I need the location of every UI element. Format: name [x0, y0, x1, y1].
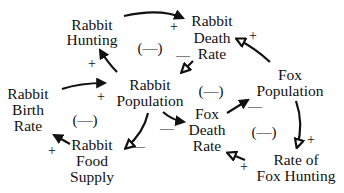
- sign-hunting-to-foxdeath: +: [240, 159, 248, 174]
- sign-food-to-birth: +: [48, 143, 56, 158]
- link-fox-to-hunting: [296, 101, 300, 147]
- loop-label-right: (—): [252, 124, 277, 141]
- sign-birth-to-pop: +: [97, 89, 105, 104]
- node-label: Death: [188, 121, 225, 138]
- link-food-to-birth: [54, 135, 70, 144]
- node-label: Fox Hunting: [257, 167, 336, 184]
- node-label: Death: [193, 29, 230, 46]
- causal-loop-diagram: Rabbit Hunting Rabbit Death Rate Fox Pop…: [0, 0, 344, 193]
- node-label: Fox: [195, 105, 219, 122]
- link-pop-to-hunting: [100, 50, 117, 72]
- node-label: Rate: [193, 137, 222, 154]
- node-label: Rate: [14, 117, 43, 134]
- node-fox-population: Fox Population: [256, 66, 323, 99]
- loop-label-left: (—): [73, 112, 98, 129]
- node-label: Rabbit: [71, 136, 113, 153]
- sign-pop-to-foxdeath: —: [159, 121, 175, 136]
- node-label: Population: [116, 92, 183, 109]
- node-label: Rabbit: [7, 85, 49, 102]
- node-label: Fox: [278, 66, 302, 83]
- node-label: Rate of: [273, 151, 319, 168]
- link-hunting-to-death: [124, 12, 183, 18]
- node-label: Rabbit: [129, 76, 171, 93]
- sign-foxdeath-to-fox: —: [247, 99, 263, 114]
- sign-death-to-pop: —: [175, 48, 191, 63]
- node-rate-of-fox-hunting: Rate of Fox Hunting: [257, 151, 336, 184]
- node-rabbit-hunting: Rabbit Hunting: [67, 16, 118, 48]
- node-rabbit-death-rate: Rabbit Death Rate: [191, 12, 233, 62]
- sign-hunting-to-death: +: [170, 19, 178, 34]
- node-rabbit-food-supply: Rabbit Food Supply: [70, 136, 114, 185]
- node-label: Supply: [70, 168, 114, 185]
- sign-pop-to-hunting: +: [88, 56, 96, 71]
- sign-pop-to-food: —: [130, 139, 146, 154]
- sign-fox-to-hunting: +: [307, 132, 315, 147]
- node-label: Hunting: [67, 31, 118, 48]
- sign-fox-to-death: +: [249, 28, 257, 43]
- node-rabbit-population: Rabbit Population: [116, 76, 183, 109]
- node-rabbit-birth-rate: Rabbit Birth Rate: [7, 85, 49, 134]
- link-foxdeath-to-fox: [227, 100, 248, 113]
- node-label: Birth: [12, 101, 44, 118]
- node-fox-death-rate: Fox Death Rate: [188, 105, 225, 154]
- node-label: Population: [256, 82, 323, 99]
- node-label: Food: [76, 152, 108, 169]
- loop-label-top: (—): [138, 40, 163, 57]
- node-label: Rabbit: [191, 12, 233, 29]
- loop-label-center: (—): [199, 83, 224, 100]
- node-label: Rate: [198, 45, 227, 62]
